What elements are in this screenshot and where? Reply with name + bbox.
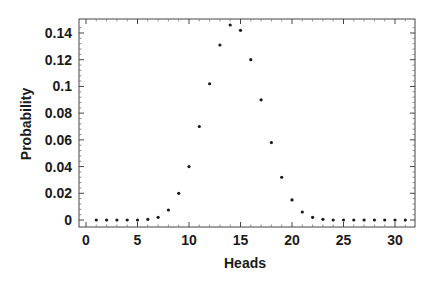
data-point <box>208 82 211 85</box>
data-point <box>249 58 252 61</box>
data-point <box>105 218 108 221</box>
data-point <box>187 165 190 168</box>
data-point <box>404 218 407 221</box>
data-point <box>270 141 273 144</box>
data-point <box>239 29 242 32</box>
x-axis-title: Heads <box>224 255 266 271</box>
x-tick-label: 5 <box>134 232 142 248</box>
x-tick-label: 20 <box>284 232 300 248</box>
y-tick-label: 0.1 <box>53 78 73 94</box>
x-tick-label: 30 <box>387 232 403 248</box>
data-point <box>290 198 293 201</box>
data-point <box>229 23 232 26</box>
data-point <box>342 218 345 221</box>
data-point <box>167 208 170 211</box>
data-point <box>115 218 118 221</box>
data-point <box>332 218 335 221</box>
data-point <box>383 218 386 221</box>
data-point <box>311 216 314 219</box>
x-tick-label: 0 <box>82 232 90 248</box>
data-point <box>301 210 304 213</box>
data-point <box>321 218 324 221</box>
x-tick-label: 25 <box>336 232 352 248</box>
probability-chart: 051015202530 00.020.040.060.080.10.120.1… <box>0 0 434 281</box>
data-point <box>393 218 396 221</box>
y-tick-label: 0.08 <box>45 105 72 121</box>
data-point <box>146 218 149 221</box>
data-point <box>363 218 366 221</box>
data-point <box>198 125 201 128</box>
data-point <box>218 43 221 46</box>
y-tick-label: 0.02 <box>45 185 72 201</box>
data-point <box>126 218 129 221</box>
data-point <box>373 218 376 221</box>
y-tick-label: 0.06 <box>45 132 72 148</box>
y-tick-label: 0.12 <box>45 52 72 68</box>
x-tick-label: 10 <box>181 232 197 248</box>
y-tick-label: 0 <box>64 212 72 228</box>
data-point <box>136 218 139 221</box>
y-axis-title: Probability <box>18 88 34 161</box>
data-point <box>95 218 98 221</box>
data-point <box>157 216 160 219</box>
data-point <box>352 218 355 221</box>
data-point <box>280 176 283 179</box>
plot-frame <box>79 19 415 227</box>
data-point <box>260 98 263 101</box>
data-point <box>177 192 180 195</box>
y-tick-label: 0.04 <box>45 159 72 175</box>
y-tick-label: 0.14 <box>45 25 72 41</box>
x-tick-label: 15 <box>233 232 249 248</box>
